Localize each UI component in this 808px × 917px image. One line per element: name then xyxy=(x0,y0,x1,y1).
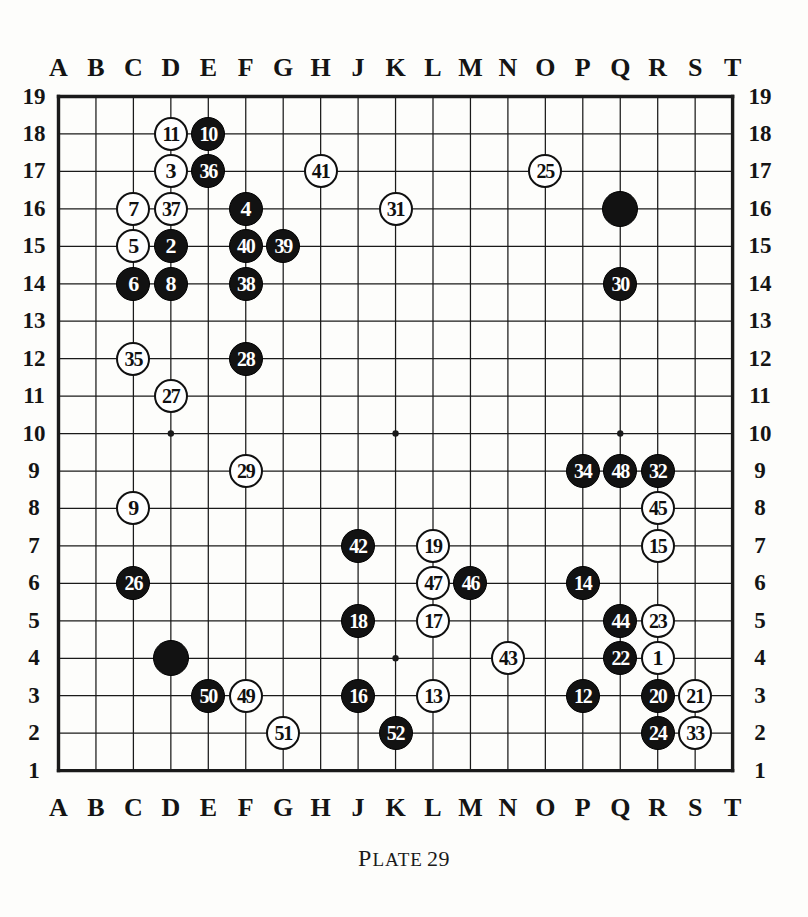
stone-44[interactable]: 44 xyxy=(603,604,637,638)
stone-number: 42 xyxy=(349,535,367,555)
stone-number: 15 xyxy=(649,535,667,555)
stone-number: 28 xyxy=(237,348,255,368)
stone-number: 52 xyxy=(387,723,405,743)
stone-number: 35 xyxy=(125,348,143,368)
stone-30[interactable]: 30 xyxy=(603,267,637,301)
stone-20[interactable]: 20 xyxy=(641,679,675,713)
stone-number: 10 xyxy=(199,123,217,143)
stone-number: 44 xyxy=(611,610,629,630)
stone-number: 17 xyxy=(424,610,442,630)
stone-number: 49 xyxy=(237,685,255,705)
stone-number: 46 xyxy=(462,573,480,593)
stone-number: 41 xyxy=(312,161,330,181)
stone-27[interactable]: 27 xyxy=(154,379,188,413)
stone-24[interactable]: 24 xyxy=(641,716,675,750)
stone-number: 6 xyxy=(128,272,139,294)
stone-number: 4 xyxy=(241,197,252,219)
stone-38[interactable]: 38 xyxy=(229,267,263,301)
stone-12[interactable]: 12 xyxy=(566,679,600,713)
stone-32[interactable]: 32 xyxy=(641,454,675,488)
stone-13[interactable]: 13 xyxy=(416,679,450,713)
stone-number: 40 xyxy=(237,236,255,256)
stone-number: 19 xyxy=(424,535,442,555)
stone-number: 9 xyxy=(128,497,139,519)
stone-number: 11 xyxy=(163,123,180,143)
stone-number: 8 xyxy=(166,272,177,294)
stone-number: 22 xyxy=(611,648,629,668)
stone-50[interactable]: 50 xyxy=(191,679,225,713)
stone-number: 7 xyxy=(128,197,139,219)
stone-number: 3 xyxy=(166,160,177,182)
stone-number: 47 xyxy=(424,573,442,593)
stone-2[interactable]: 2 xyxy=(154,229,188,263)
stone-number: 26 xyxy=(125,573,143,593)
stone-43[interactable]: 43 xyxy=(491,641,525,675)
stone-number: 25 xyxy=(537,161,555,181)
stone-18[interactable]: 18 xyxy=(341,604,375,638)
stone-52[interactable]: 52 xyxy=(379,716,413,750)
stone-number: 38 xyxy=(237,273,255,293)
stone-number: 18 xyxy=(349,610,367,630)
stone-34[interactable]: 34 xyxy=(566,454,600,488)
stone-number: 33 xyxy=(686,723,704,743)
stone-23[interactable]: 23 xyxy=(641,604,675,638)
stone-37[interactable]: 37 xyxy=(154,192,188,226)
stone-number: 13 xyxy=(424,685,442,705)
stone-number: 45 xyxy=(649,498,667,518)
stone-number: 32 xyxy=(649,461,667,481)
stone-17[interactable]: 17 xyxy=(416,604,450,638)
stone-4[interactable]: 4 xyxy=(229,192,263,226)
stone-number: 24 xyxy=(649,723,667,743)
board-grid xyxy=(0,0,808,917)
stone-16[interactable]: 16 xyxy=(341,679,375,713)
stone-number: 37 xyxy=(162,198,180,218)
stone-28[interactable]: 28 xyxy=(229,342,263,376)
stone-40[interactable]: 40 xyxy=(229,229,263,263)
stone-14[interactable]: 14 xyxy=(566,566,600,600)
stone-number: 48 xyxy=(611,461,629,481)
stone-black-Q16[interactable] xyxy=(602,191,638,227)
stone-number: 2 xyxy=(166,235,177,257)
stone-35[interactable]: 35 xyxy=(116,342,150,376)
stone-45[interactable]: 45 xyxy=(641,491,675,525)
stone-number: 16 xyxy=(349,685,367,705)
stone-21[interactable]: 21 xyxy=(678,679,712,713)
stone-number: 14 xyxy=(574,573,592,593)
stone-number: 36 xyxy=(199,161,217,181)
stone-29[interactable]: 29 xyxy=(229,454,263,488)
plate-page: ABCDEFGHJKLMNOPQRST ABCDEFGHJKLMNOPQRST … xyxy=(0,0,808,917)
stone-number: 12 xyxy=(574,685,592,705)
stone-number: 50 xyxy=(199,685,217,705)
stone-number: 30 xyxy=(611,273,629,293)
plate-number: 29 xyxy=(427,846,450,871)
stone-number: 39 xyxy=(274,236,292,256)
plate-caption: PLATE 29 xyxy=(0,845,808,872)
plate-label: PLATE xyxy=(358,849,423,870)
stone-number: 43 xyxy=(499,648,517,668)
stone-3[interactable]: 3 xyxy=(154,154,188,188)
stone-48[interactable]: 48 xyxy=(603,454,637,488)
stone-7[interactable]: 7 xyxy=(116,192,150,226)
stone-black-D4[interactable] xyxy=(153,640,189,676)
stone-10[interactable]: 10 xyxy=(191,117,225,151)
stone-41[interactable]: 41 xyxy=(304,154,338,188)
stone-31[interactable]: 31 xyxy=(379,192,413,226)
stone-11[interactable]: 11 xyxy=(154,117,188,151)
stone-6[interactable]: 6 xyxy=(116,267,150,301)
stone-number: 31 xyxy=(387,198,405,218)
stone-49[interactable]: 49 xyxy=(229,679,263,713)
go-board[interactable]: ABCDEFGHJKLMNOPQRST ABCDEFGHJKLMNOPQRST … xyxy=(0,0,808,917)
stone-42[interactable]: 42 xyxy=(341,529,375,563)
stone-number: 29 xyxy=(237,461,255,481)
stone-number: 34 xyxy=(574,461,592,481)
stone-number: 5 xyxy=(128,235,139,257)
stone-1[interactable]: 1 xyxy=(641,641,675,675)
stone-15[interactable]: 15 xyxy=(641,529,675,563)
stone-number: 23 xyxy=(649,610,667,630)
stone-19[interactable]: 19 xyxy=(416,529,450,563)
stone-8[interactable]: 8 xyxy=(154,267,188,301)
stone-number: 51 xyxy=(274,723,292,743)
stone-number: 20 xyxy=(649,685,667,705)
stone-number: 21 xyxy=(686,685,704,705)
stone-number: 1 xyxy=(652,647,663,669)
